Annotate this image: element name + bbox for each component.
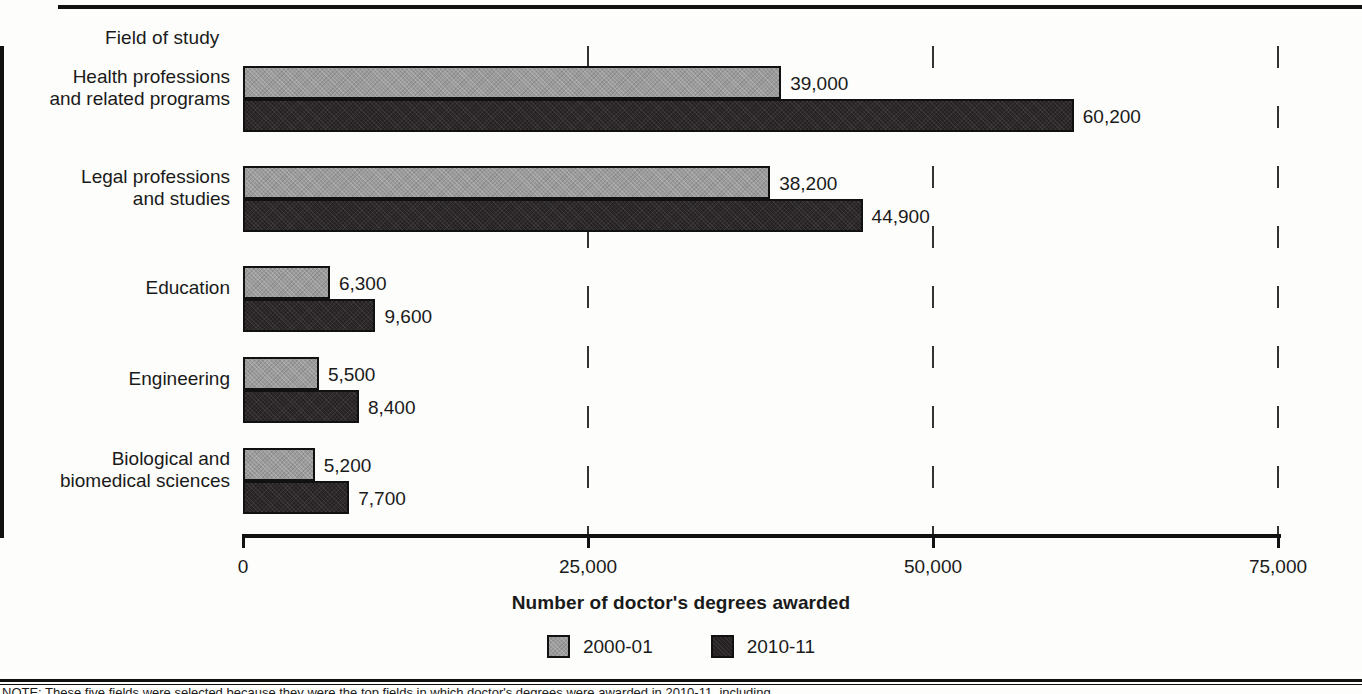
bottom-rule-thin: [0, 684, 1362, 685]
footnote-note: NOTE: These five fields were selected be…: [2, 686, 1360, 694]
category-label: Biological and biomedical sciences: [60, 448, 230, 492]
bar-2010-11-3: [243, 390, 359, 423]
chart-legend: 2000-012010-11: [0, 635, 1362, 658]
category-label: Legal professions and studies: [81, 166, 230, 210]
x-axis-tick-label: 75,000: [1249, 556, 1307, 578]
bar-value-label: 5,500: [328, 365, 376, 384]
bar-value-label: 6,300: [339, 274, 387, 293]
bar-2000-01-0: [243, 66, 781, 99]
gridline: [1277, 46, 1279, 535]
x-axis-tick-label: 50,000: [904, 556, 962, 578]
x-axis-line: [243, 534, 1281, 538]
bottom-rule: [0, 679, 1362, 682]
bar-value-label: 7,700: [358, 489, 406, 508]
x-axis-tick: [587, 534, 590, 548]
bar-value-label: 8,400: [368, 398, 416, 417]
bar-2010-11-0: [243, 99, 1074, 132]
bar-2000-01-1: [243, 166, 770, 199]
x-axis-tick-label: 25,000: [559, 556, 617, 578]
legend-label: 2000-01: [583, 636, 653, 658]
x-axis-tick: [932, 534, 935, 548]
category-label: Health professions and related programs: [49, 66, 230, 110]
y-axis-title: Field of study: [105, 27, 219, 49]
legend-item-2010-11: 2010-11: [711, 635, 815, 658]
bar-2000-01-2: [243, 266, 330, 299]
bar-2000-01-4: [243, 448, 315, 481]
x-axis-tick: [242, 534, 245, 548]
x-axis-title: Number of doctor's degrees awarded: [0, 592, 1362, 614]
figure-root: Field of study 025,00050,00075,000 Healt…: [0, 0, 1362, 694]
legend-item-2000-01: 2000-01: [547, 635, 653, 658]
bar-value-label: 38,200: [779, 174, 837, 193]
bar-value-label: 39,000: [790, 74, 848, 93]
bar-value-label: 60,200: [1083, 107, 1141, 126]
bar-2010-11-4: [243, 481, 349, 514]
bar-2000-01-3: [243, 357, 319, 390]
category-label: Engineering: [129, 368, 230, 390]
category-label: Education: [145, 277, 230, 299]
bar-value-label: 9,600: [384, 307, 432, 326]
legend-label: 2010-11: [747, 636, 815, 658]
bar-2010-11-1: [243, 199, 863, 232]
x-axis-tick-label: 0: [238, 556, 249, 578]
y-axis-line: [0, 46, 4, 538]
bar-2010-11-2: [243, 299, 375, 332]
legend-swatch: [711, 635, 734, 658]
legend-swatch: [547, 635, 570, 658]
top-rule: [58, 5, 1362, 9]
bar-value-label: 5,200: [324, 456, 372, 475]
x-axis-tick: [1277, 534, 1280, 548]
bar-value-label: 44,900: [872, 207, 930, 226]
